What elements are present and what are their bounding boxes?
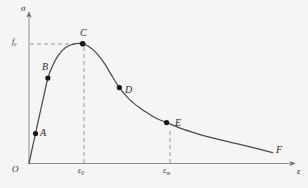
y-tick-fc-sub: c (14, 41, 16, 47)
data-point-D (117, 85, 122, 90)
data-point-E (164, 120, 169, 125)
x-tick-label-epsilonm: εm (163, 167, 170, 176)
point-label-F: F (276, 145, 282, 155)
stress-strain-figure: σ ε O fc ε0 εm A B C D E F (0, 0, 308, 188)
y-axis-label: σ (21, 4, 25, 13)
point-label-E: E (175, 118, 181, 128)
point-label-A: A (40, 128, 46, 138)
stress-strain-curve (29, 43, 273, 163)
point-label-B: B (42, 62, 48, 72)
x-axis-label: ε (297, 167, 301, 176)
point-label-D: D (125, 85, 132, 95)
figure-canvas (0, 0, 308, 188)
data-point-C (80, 41, 86, 47)
x-tick-label-epsilon0: ε0 (78, 167, 84, 176)
origin-label: O (12, 165, 19, 174)
x-tick-epsilonm-sub: m (166, 170, 170, 176)
y-tick-label-fc: fc (12, 38, 17, 47)
data-point-B (45, 75, 50, 80)
data-point-A (33, 131, 38, 136)
x-tick-epsilon0-sub: 0 (81, 170, 84, 176)
point-label-C: C (80, 28, 87, 38)
